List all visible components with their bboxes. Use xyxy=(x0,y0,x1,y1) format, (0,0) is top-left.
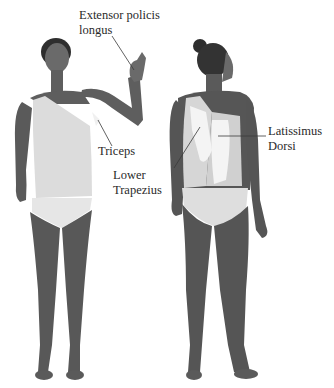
extensor-leader-line xyxy=(112,36,134,70)
label-extensor-policis-longus: Extensor policis longus xyxy=(79,8,160,38)
label-line: longus xyxy=(79,23,160,38)
label-latissimus-dorsi: Latissimus Dorsi xyxy=(268,124,322,154)
back-figure xyxy=(170,39,268,380)
front-figure xyxy=(15,38,146,380)
label-line: Latissimus xyxy=(268,124,322,139)
anatomy-figure: Extensor policis longus Triceps Lower Tr… xyxy=(0,0,334,388)
label-lower-trapezius: Lower Trapezius xyxy=(113,168,162,198)
label-line: Extensor policis xyxy=(79,8,160,23)
figure-illustration xyxy=(0,0,334,388)
label-line: Trapezius xyxy=(113,183,162,198)
label-line: Triceps xyxy=(98,144,135,159)
label-line: Dorsi xyxy=(268,139,322,154)
triceps-leader-line xyxy=(98,120,112,146)
label-line: Lower xyxy=(113,168,162,183)
label-triceps: Triceps xyxy=(98,144,135,159)
